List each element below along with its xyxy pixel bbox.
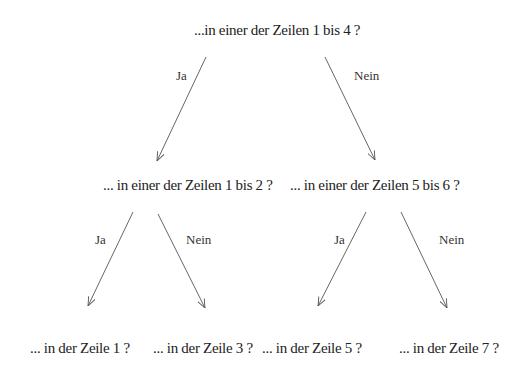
leaf-row-1: ... in der Zeile 1 ? xyxy=(30,340,130,357)
edge-right-no xyxy=(401,212,447,308)
edge-left-yes xyxy=(88,212,133,306)
edge-label-no: Nein xyxy=(439,232,464,248)
edge-label-yes: Ja xyxy=(95,232,106,248)
edge-right-yes xyxy=(318,212,366,306)
leaf-row-7: ... in der Zeile 7 ? xyxy=(399,340,499,357)
root-node: ...in einer der Zeilen 1 bis 4 ? xyxy=(194,22,360,39)
edge-label-yes: Ja xyxy=(334,232,345,248)
edge-left-no xyxy=(158,214,205,308)
edge-label-no: Nein xyxy=(354,68,379,84)
edge-label-no: Nein xyxy=(186,232,211,248)
edge-label-yes: Ja xyxy=(176,68,187,84)
node-rows-1-2: ... in einer der Zeilen 1 bis 2 ? xyxy=(103,177,273,194)
leaf-row-5: ... in der Zeile 5 ? xyxy=(262,340,362,357)
node-rows-5-6: ... in einer der Zeilen 5 bis 6 ? xyxy=(290,177,460,194)
leaf-row-3: ... in der Zeile 3 ? xyxy=(153,340,253,357)
